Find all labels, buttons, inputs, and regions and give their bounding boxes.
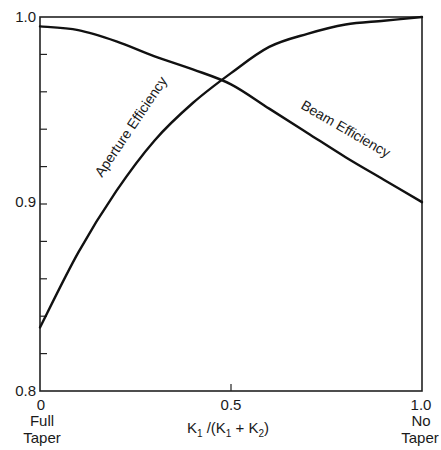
- x-tick-label-0: 0: [37, 396, 45, 413]
- aperture-efficiency-label: Aperture Efficiency: [91, 74, 170, 180]
- x-tick-label-1.0: 1.0: [411, 396, 432, 413]
- x-tick-label-0.5: 0.5: [221, 396, 242, 413]
- x-tick-sublabel-no: No: [411, 412, 430, 429]
- y-axis-ticks: [40, 54, 47, 353]
- x-tick-sublabel-taper-left: Taper: [23, 429, 61, 446]
- efficiency-chart: 1.0 0.9 0.8 0 Full Taper 0.5 1.0 No Tape…: [0, 0, 441, 450]
- x-axis-label: K1 /(K1 + K2): [187, 419, 269, 439]
- y-tick-label-1.0: 1.0: [15, 8, 36, 25]
- y-tick-label-0.8: 0.8: [15, 382, 36, 399]
- x-tick-sublabel-full: Full: [30, 412, 54, 429]
- beam-efficiency-label: Beam Efficiency: [299, 97, 394, 161]
- x-tick-sublabel-taper-right: Taper: [401, 429, 439, 446]
- y-tick-label-0.9: 0.9: [15, 193, 36, 210]
